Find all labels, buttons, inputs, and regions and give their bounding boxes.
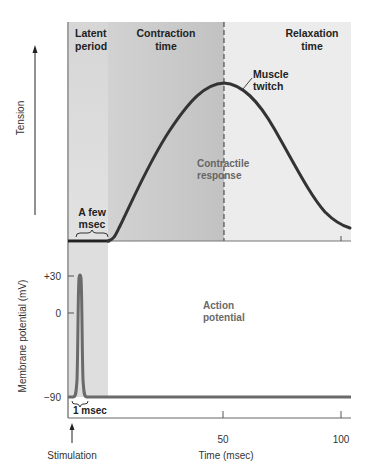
action-potential-label-1: Action [203, 300, 234, 311]
contraction-time-region [108, 22, 224, 241]
membrane-axis-label: Membrane potential (mV) [17, 280, 28, 393]
relaxation-label-2: time [301, 40, 323, 52]
few-msec-label-1: A few [78, 206, 106, 218]
ytick-label-30: +30 [44, 271, 61, 282]
relaxation-time-region [224, 22, 351, 241]
stimulus-window-shading [69, 243, 108, 397]
action-potential-label-2: potential [203, 312, 245, 323]
latent-label-2: period [75, 40, 107, 52]
stimulation-arrow-icon [70, 423, 75, 430]
one-msec-label: 1 msec [73, 405, 107, 416]
tension-arrow-icon [33, 45, 38, 53]
twitch-diagram: Tension Membrane potential (mV) Latent p… [0, 0, 366, 475]
latent-label-1: Latent [75, 27, 107, 39]
action-potential-curve [68, 275, 351, 397]
muscle-twitch-label-2: twitch [253, 80, 283, 92]
muscle-twitch-label-1: Muscle [253, 68, 289, 80]
ytick-label-m90: −90 [44, 392, 61, 403]
relaxation-label-1: Relaxation [285, 27, 338, 39]
ytick-label-0: 0 [55, 308, 61, 319]
xtick-label-100: 100 [333, 434, 350, 445]
time-axis-label: Time (msec) [198, 450, 253, 461]
stimulation-label: Stimulation [47, 450, 96, 461]
tension-axis-label: Tension [15, 101, 26, 135]
contractile-response-label-1: Contractile [197, 158, 250, 169]
few-msec-label-2: msec [79, 218, 106, 230]
contractile-response-label-2: response [197, 170, 242, 181]
contraction-label-1: Contraction [137, 27, 196, 39]
contraction-label-2: time [155, 40, 177, 52]
xtick-label-50: 50 [217, 434, 229, 445]
